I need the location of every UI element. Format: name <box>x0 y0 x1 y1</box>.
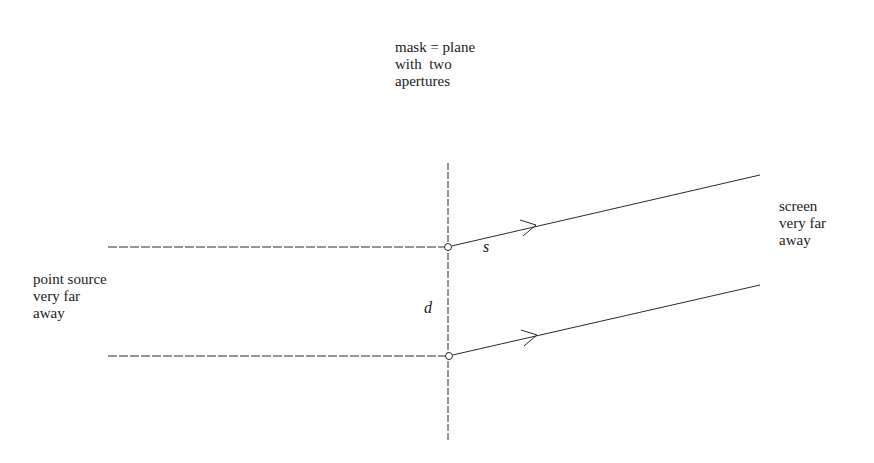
screen-label: screen very far away <box>779 198 826 249</box>
source-label-line-2: very far <box>33 288 107 305</box>
mask-label: mask = plane with two apertures <box>395 39 475 90</box>
screen-label-line-2: very far <box>779 215 826 232</box>
aperture-lower <box>446 353 453 360</box>
diagram-canvas: mask = plane with two apertures point so… <box>0 0 874 463</box>
path-variable-s: s <box>483 238 489 256</box>
outgoing-ray-upper <box>452 175 761 246</box>
point-source-label: point source very far away <box>33 271 107 322</box>
source-label-line-3: away <box>33 305 107 322</box>
separation-variable-d: d <box>424 299 432 317</box>
screen-label-line-3: away <box>779 232 826 249</box>
mask-label-line-1: mask = plane <box>395 39 475 56</box>
screen-label-line-1: screen <box>779 198 826 215</box>
source-label-line-1: point source <box>33 271 107 288</box>
aperture-upper <box>445 244 452 251</box>
mask-label-line-2: with two <box>395 56 475 73</box>
mask-label-line-3: apertures <box>395 73 475 90</box>
outgoing-ray-lower <box>453 285 761 355</box>
